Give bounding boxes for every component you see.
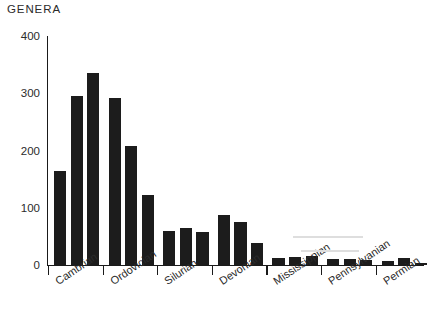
bar [109,98,121,265]
y-tick-label: 100 [21,202,40,214]
bar [87,73,99,265]
y-tick-label: 200 [21,145,40,157]
bar [54,171,66,265]
period-tick [266,266,267,275]
chart-title: GENERA [7,3,61,15]
y-tick-label: 300 [21,87,40,99]
y-tick-label: 400 [21,30,40,42]
period-tick [157,266,158,275]
genera-bar-chart: GENERA 0100200300400 CambrianOrdovicianS… [0,0,428,335]
bar [272,258,284,265]
bar [382,261,394,265]
scan-speckle [293,236,363,238]
bar [125,146,137,265]
bar [218,215,230,265]
scan-speckle [301,250,359,252]
period-tick [376,266,377,275]
period-tick [212,266,213,275]
bar [196,232,208,265]
period-tick [103,266,104,275]
bars-layer [49,30,424,265]
plot-area: 0100200300400 CambrianOrdovicianSilurian… [47,30,424,266]
period-tick [48,266,49,275]
bar [327,259,339,265]
period-tick [321,266,322,275]
bar [163,231,175,265]
y-tick-label: 0 [34,259,40,271]
bar [71,96,83,265]
